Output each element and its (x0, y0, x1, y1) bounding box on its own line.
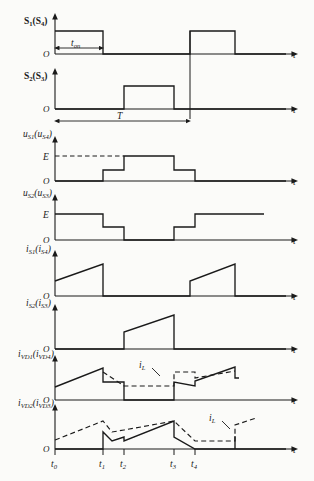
origin-label: O (43, 49, 50, 59)
panel-voltage-us2-us3 (55, 200, 292, 240)
label-group-is1-is4: iS1(iS4) O t (26, 244, 296, 302)
il-label: iL (209, 413, 216, 424)
time-axis-label: t (293, 445, 296, 455)
E-level-label: E (42, 152, 49, 162)
label-group-ivd1-ivd4: iVD1(iVD4) O t iL (18, 349, 296, 406)
panel-voltage-us1-us4 (55, 142, 292, 181)
inductor-current-il-trace (55, 418, 256, 441)
waveform-is1-is4 (55, 264, 286, 296)
label-group-ivd2-ivd3: iVD2(iVD3) O t iL t0 t1 t2 t3 t4 (18, 398, 296, 470)
waveform-is2-is3 (55, 315, 286, 349)
signal-label-us2us3: uS2(uS3) (23, 188, 52, 199)
period-label: T (117, 111, 123, 121)
waveform-s1-s4 (55, 31, 286, 54)
time-marker-t4: t4 (191, 459, 198, 470)
E-level-label: E (42, 210, 49, 220)
time-axis-label: t (293, 292, 296, 302)
panel-gate-signal-s2-s3 (55, 31, 292, 121)
waveform-us2-us3 (55, 214, 264, 240)
time-axis-label: t (293, 105, 296, 115)
panel-current-ivd2-ivd3 (55, 410, 292, 455)
il-label: iL (139, 360, 146, 371)
time-marker-t3: t3 (170, 459, 177, 470)
label-group-s2-s3: S2(S3) O t T (24, 71, 296, 121)
panel-current-is2-is3 (55, 310, 292, 349)
time-axis-label: t (293, 345, 296, 355)
ton-label: ton (71, 38, 81, 49)
label-group-us2-us3: uS2(uS3) E O t (23, 188, 296, 246)
time-axis-label: t (293, 396, 296, 406)
label-group-is2-is3: iS2(iS3) O t (26, 298, 296, 355)
time-marker-t2: t2 (120, 459, 127, 470)
panel-current-is1-is4 (55, 256, 292, 296)
origin-label: O (43, 104, 50, 114)
label-group-us1-us4: uS1(uS4) E O t (23, 129, 296, 187)
il-leader-line (222, 421, 230, 429)
time-marker-t1: t1 (99, 459, 105, 470)
signal-label-is2is3: iS2(iS3) (26, 298, 51, 309)
signal-label-us1us4: uS1(uS4) (23, 129, 52, 140)
signal-label-is1is4: iS1(iS4) (26, 244, 51, 255)
waveform-us1-us4 (55, 156, 286, 181)
waveform-ivd1-ivd4 (55, 367, 239, 400)
origin-label: O (43, 444, 50, 454)
panel-current-ivd1-ivd4 (55, 361, 292, 400)
waveform-ivd2-ivd3 (55, 421, 286, 449)
waveform-s2-s3 (55, 86, 286, 109)
time-axis-label: t (293, 50, 296, 60)
origin-label: O (43, 176, 50, 186)
waveform-figure: S1(S4) O t ton S2(S3) O t T uS1(uS4) E O… (0, 0, 314, 481)
signal-label-s1s4: S1(S4) (24, 16, 48, 27)
il-leader-line (152, 368, 160, 376)
panel-gate-signal-s1-s4 (55, 19, 292, 54)
time-marker-t0: t0 (51, 459, 58, 470)
time-axis-label: t (293, 177, 296, 187)
signal-label-s2s3: S2(S3) (24, 71, 48, 82)
time-axis-label: t (293, 236, 296, 246)
